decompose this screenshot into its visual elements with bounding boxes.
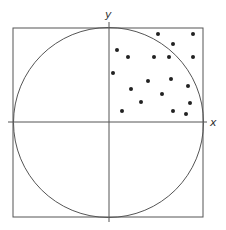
random-point xyxy=(186,84,190,88)
random-point xyxy=(126,55,130,59)
random-points xyxy=(111,32,195,116)
random-point xyxy=(171,109,175,113)
random-point xyxy=(129,87,133,91)
quarter-circle-diagram: x y xyxy=(0,0,226,230)
x-axis-label: x xyxy=(209,116,217,129)
random-point xyxy=(156,32,160,36)
random-point xyxy=(120,109,124,113)
y-axis-label: y xyxy=(104,8,112,21)
random-point xyxy=(191,32,195,36)
random-point xyxy=(152,55,156,59)
random-point xyxy=(171,42,175,46)
random-point xyxy=(160,92,164,96)
random-point xyxy=(167,55,171,59)
random-point xyxy=(146,79,150,83)
random-point xyxy=(184,112,188,116)
random-point xyxy=(139,100,143,104)
random-point xyxy=(188,101,192,105)
random-point xyxy=(169,77,173,81)
random-point xyxy=(191,55,195,59)
random-point xyxy=(115,48,119,52)
random-point xyxy=(111,71,115,75)
